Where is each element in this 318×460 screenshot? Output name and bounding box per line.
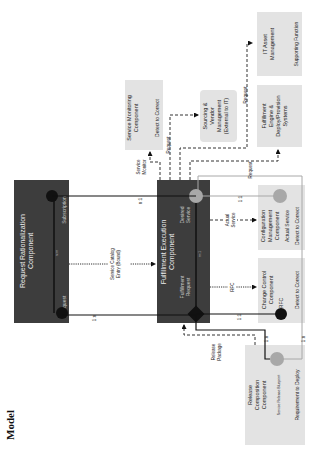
conn-service-catalog-2: Entry (Bound) (116, 250, 121, 278)
sv-title-2: Vendor (209, 107, 215, 125)
fen-title-4: Systems (282, 105, 288, 126)
cc-rfc: RFC (278, 297, 284, 308)
rc-title-3: Component (261, 380, 267, 409)
change-control-component[interactable]: Change Control Component RFC Detect to C… (258, 258, 305, 323)
cc-footer: Detect to Correct (294, 270, 300, 308)
request-node (56, 307, 68, 319)
conn-release-package-1: Release (211, 343, 216, 360)
conn-request-asset: Request (243, 86, 248, 104)
sv-title-4: (External to IT) (223, 98, 229, 135)
fe-desired-label-2: Service (185, 206, 191, 223)
conn-service-catalog-1: Service Catalog (110, 248, 115, 280)
configuration-management-component[interactable]: Configuration Management Component Actua… (258, 185, 305, 250)
fulfillment-engine-component[interactable]: Fulfillment Engine & Deploy/Provision Sy… (257, 85, 302, 147)
cm-title-3: Component (274, 211, 280, 240)
release-composition-component[interactable]: Release Composition Component Service Re… (245, 345, 305, 445)
ita-title-1: IT Asset (262, 34, 268, 54)
conn-release-package-2: Package (217, 343, 222, 361)
conn-actual-2: Service (231, 212, 236, 228)
conn-fulfillment-rfc: 1:1 (237, 313, 242, 320)
conn-release-service: 1:n (301, 335, 306, 342)
rc-item: Service Release Blueprint (277, 375, 281, 415)
cc-title-2: Component (268, 275, 274, 304)
service-monitoring-component[interactable]: Service Monitoring Component Detect to C… (125, 80, 163, 150)
fe-cardinality: m:1 (197, 250, 202, 257)
fe-fulfillment-label-2: Request (185, 277, 191, 296)
rr-subscription-label: Subscription (61, 196, 67, 224)
conn-request-engine: Request (248, 161, 253, 179)
rc-title-1: Release (247, 385, 253, 405)
sm-title-2: Component (133, 103, 139, 132)
sourcing-vendor-component[interactable]: Sourcing & Vendor Management (External t… (200, 90, 237, 142)
sm-title-1: Service Monitoring (126, 95, 132, 141)
ita-title-2: Management (269, 27, 275, 60)
cm-title-2: Management (267, 209, 273, 242)
conn-subscription-service: n:1 (138, 197, 143, 204)
rc-footer: Requirement to Deploy (294, 369, 300, 421)
rr-title-2: Component (27, 233, 35, 269)
conn-service-monitor-2: Monitor (142, 159, 147, 175)
fe-title-1: Fulfillment Execution (160, 220, 167, 285)
rr-cardinality: n:m (54, 249, 59, 256)
fen-title-3: Deploy/Provision (275, 95, 281, 136)
fe-title-2: Component (168, 234, 176, 270)
it-asset-component[interactable]: IT Asset Management Supporting Function (257, 12, 302, 76)
conn-rfc: RFC (230, 282, 235, 292)
conn-service-monitor-1: Service (136, 159, 141, 175)
sm-footer: Detect to Correct (154, 98, 160, 136)
ita-footer: Supporting Function (293, 21, 299, 66)
fulfillment-execution-component[interactable]: Fulfillment Execution Component Fulfillm… (157, 180, 210, 323)
conn-fulfillment-release: 1:n (264, 335, 269, 342)
sv-title-3: Management (216, 99, 222, 132)
conn-actual-1: Actual (225, 214, 230, 227)
page-heading: Model (4, 410, 16, 440)
fen-title-2: Engine & (268, 105, 274, 128)
sv-title-1: Sourcing & (202, 102, 208, 129)
cc-title-1: Change Control (261, 271, 267, 310)
request-rationalization-component[interactable]: Request Rationalization Component Reques… (14, 180, 69, 323)
conn-request-fulfillment: 1:n (92, 314, 97, 321)
fen-title-1: Fulfillment (261, 103, 267, 129)
conn-service-config: 1:1 (238, 195, 243, 202)
rr-title-1: Request Rationalization (19, 214, 27, 288)
cm-title-1: Configuration (260, 210, 266, 243)
cm-footer: Detect to Correct (294, 206, 300, 244)
conn-request-sourcing: Request (166, 136, 171, 154)
cm-item: Actual Service (284, 210, 290, 242)
rc-title-2: Composition (254, 380, 260, 411)
